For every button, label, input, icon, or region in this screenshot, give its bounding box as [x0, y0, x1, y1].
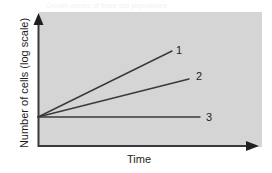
series-label-3: 3 — [206, 111, 212, 123]
series-label-2: 2 — [196, 70, 202, 82]
x-axis-title: Time — [104, 153, 174, 165]
plot-background-panel — [39, 12, 262, 147]
series-label-1: 1 — [176, 44, 182, 56]
figure-container: Growth curves of three cell populations … — [0, 0, 272, 173]
y-axis-title: Number of cells (log scale) — [18, 12, 30, 154]
chart-plot-area — [0, 0, 272, 173]
